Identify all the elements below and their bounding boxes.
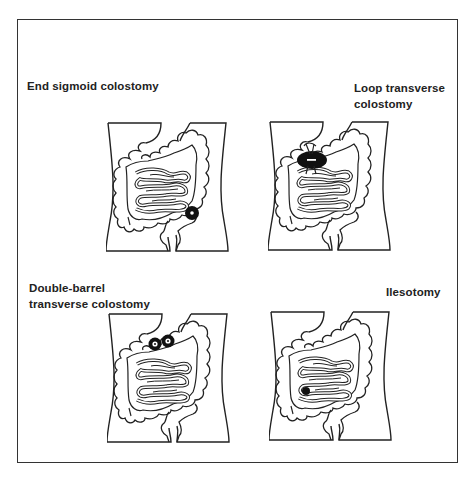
- abdomen-diagram: [268, 120, 392, 252]
- label-loop-transverse-colostomy: Loop transverse colostomy: [354, 80, 445, 112]
- panel-end-sigmoid-colostomy: [106, 121, 230, 253]
- label-ileostomy: Ilesotomy: [386, 284, 441, 300]
- abdomen-diagram: [106, 121, 230, 253]
- double-barrel-stoma-icon: [149, 335, 175, 351]
- panel-loop-transverse-colostomy: [268, 120, 392, 252]
- label-line: Loop transverse: [354, 80, 445, 96]
- ileostomy-stoma-icon: [302, 387, 310, 395]
- abdomen-diagram: [269, 310, 393, 442]
- label-line: End sigmoid colostomy: [27, 78, 159, 94]
- label-line: Double-barrel: [29, 280, 150, 296]
- panel-double-barrel-colostomy: [107, 312, 231, 444]
- label-end-sigmoid-colostomy: End sigmoid colostomy: [27, 78, 159, 94]
- abdomen-diagram: [107, 312, 231, 444]
- panel-ileostomy: [269, 310, 393, 442]
- label-line: transverse colostomy: [29, 296, 150, 312]
- stoma-icon: [185, 206, 199, 220]
- label-double-barrel-colostomy: Double-barrel transverse colostomy: [29, 280, 150, 312]
- label-line: Ilesotomy: [386, 284, 441, 300]
- label-line: colostomy: [354, 96, 445, 112]
